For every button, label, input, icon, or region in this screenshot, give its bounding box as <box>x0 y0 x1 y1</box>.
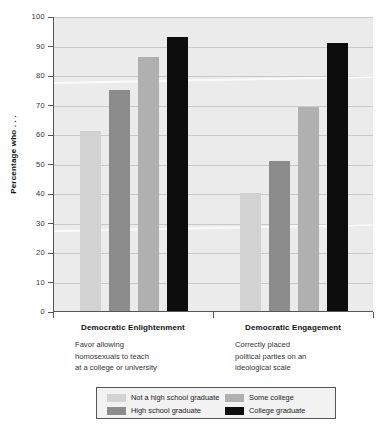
group-description-1: Favor allowinghomosexuals to teachat a c… <box>75 339 205 374</box>
bar-2-1 <box>240 193 261 311</box>
legend-swatch-3 <box>225 394 244 402</box>
gridline-100 <box>54 17 373 18</box>
gridline-10 <box>54 283 373 284</box>
y-tick-100: 100 <box>0 11 53 23</box>
legend-label-4: College graduate <box>249 406 305 415</box>
group-desc-line: Favor allowing <box>75 339 205 351</box>
y-tick-0: 0 <box>0 306 53 318</box>
gridline-30 <box>54 224 373 225</box>
group-label-1: Democratic Enlightenment <box>53 323 213 332</box>
legend-item-3: Some college <box>225 393 294 402</box>
legend-label-1: Not a high school graduate <box>131 393 219 402</box>
y-tick-label: 40 <box>36 189 45 198</box>
legend-label-3: Some college <box>249 393 294 402</box>
y-tick-50: 50 <box>0 159 53 171</box>
group-desc-line: homosexuals to teach <box>75 351 205 363</box>
y-tick-30: 30 <box>0 218 53 230</box>
y-tick-20: 20 <box>0 247 53 259</box>
y-tick-label: 20 <box>36 248 45 257</box>
group-desc-line: Correctly placed <box>235 339 365 351</box>
scan-artifact <box>54 224 373 233</box>
gridline-40 <box>54 194 373 195</box>
y-tick-40: 40 <box>0 188 53 200</box>
bar-1-2 <box>109 90 130 311</box>
bar-1-4 <box>167 37 188 311</box>
y-tick-10: 10 <box>0 277 53 289</box>
y-tick-label: 80 <box>36 71 45 80</box>
y-tick-label: 60 <box>36 130 45 139</box>
bar-2-3 <box>298 107 319 311</box>
legend-label-2: High school graduate <box>131 406 201 415</box>
group-label-2: Democratic Engagement <box>213 323 373 332</box>
legend-item-4: College graduate <box>225 406 305 415</box>
gridline-70 <box>54 106 373 107</box>
plot-area <box>53 17 373 312</box>
chart-legend: Not a high school graduateHigh school gr… <box>96 387 336 419</box>
gridline-50 <box>54 165 373 166</box>
y-tick-label: 100 <box>32 12 45 21</box>
bar-chart-figure: Percentage who . . . 1009080706050403020… <box>0 0 385 428</box>
y-tick-label: 30 <box>36 219 45 228</box>
group-desc-line: ideological scale <box>235 362 365 374</box>
x-axis-tick-0 <box>53 312 54 318</box>
y-tick-label: 0 <box>41 307 45 316</box>
group-desc-line: at a college or university <box>75 362 205 374</box>
gridline-20 <box>54 253 373 254</box>
y-tick-80: 80 <box>0 70 53 82</box>
scan-artifact <box>54 76 373 84</box>
legend-item-1: Not a high school graduate <box>107 393 219 402</box>
gridline-90 <box>54 47 373 48</box>
x-axis-tick-1 <box>213 312 214 318</box>
gridline-80 <box>54 76 373 77</box>
y-tick-60: 60 <box>0 129 53 141</box>
bar-2-2 <box>269 161 290 311</box>
group-desc-line: political parties on an <box>235 351 365 363</box>
group-description-2: Correctly placedpolitical parties on ani… <box>235 339 365 374</box>
y-tick-label: 70 <box>36 101 45 110</box>
bar-1-3 <box>138 57 159 311</box>
y-tick-90: 90 <box>0 41 53 53</box>
y-tick-label: 10 <box>36 278 45 287</box>
bar-1-1 <box>80 131 101 311</box>
legend-swatch-4 <box>225 407 244 415</box>
gridline-60 <box>54 135 373 136</box>
y-tick-label: 90 <box>36 42 45 51</box>
legend-item-2: High school graduate <box>107 406 201 415</box>
y-tick-label: 50 <box>36 160 45 169</box>
bar-2-4 <box>327 43 348 311</box>
legend-swatch-2 <box>107 407 126 415</box>
x-axis-tick-2 <box>373 312 374 318</box>
legend-swatch-1 <box>107 394 126 402</box>
y-tick-70: 70 <box>0 100 53 112</box>
y-axis-ticks: 1009080706050403020100 <box>0 0 53 312</box>
